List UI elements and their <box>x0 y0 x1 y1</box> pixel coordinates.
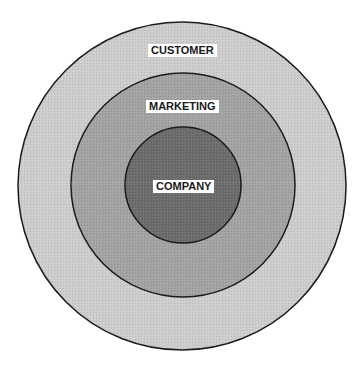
marketing-label: MARKETING <box>146 100 219 113</box>
company-label: COMPANY <box>153 180 214 193</box>
customer-label: CUSTOMER <box>148 44 217 57</box>
